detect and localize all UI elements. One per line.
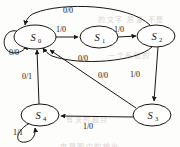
transition-label-t-s1-s2: 1/0	[114, 25, 124, 34]
transition-label-t-s3-s0: 0/0	[98, 71, 108, 80]
state-subscript: 0	[38, 37, 41, 44]
state-diagram-figure: 的文字 质量 不是一个系统的有关的题目电路图中的输出	[0, 0, 180, 147]
state-label: S	[30, 32, 36, 43]
state-subscript: 3	[155, 115, 158, 122]
state-diagram-canvas: S0S1S2S3S4 0/01/01/00/00/01/00/01/00/11/…	[0, 0, 180, 147]
transition-label-t-s2-s0-mid: 0/0	[78, 54, 88, 63]
transition-label-t-s2-s0-top: 0/0	[63, 6, 73, 15]
state-label: S	[147, 110, 153, 121]
state-label: S	[151, 31, 157, 42]
transition-label-t-s3-s4: 1/0	[83, 122, 93, 131]
edge-s4-s0	[37, 50, 39, 104]
transition-label-t-s0-s1: 1/0	[56, 25, 66, 34]
transition-label-t-s4-s0: 0/1	[22, 72, 32, 81]
edge-s2-s3	[154, 47, 158, 101]
state-label: S	[35, 110, 41, 121]
transition-label-t-s4-self: 1/1	[13, 128, 23, 137]
state-subscript: 1	[102, 37, 105, 44]
state-node-s1[interactable]: S1	[80, 26, 118, 48]
transition-label-t-s0-self: 0/0	[9, 48, 19, 57]
transition-label-t-s2-s3: 1/0	[130, 70, 140, 79]
state-node-s2[interactable]: S2	[137, 25, 175, 47]
state-node-s3[interactable]: S3	[133, 104, 171, 126]
edge-s2-s0-lower	[43, 47, 152, 62]
state-subscript: 2	[159, 36, 162, 43]
state-label: S	[94, 32, 100, 43]
edge-s3-s4	[61, 116, 133, 117]
edge-s1-s2	[118, 36, 136, 37]
state-node-s4[interactable]: S4	[21, 104, 59, 126]
edge-s2-s0-top	[25, 6, 150, 25]
state-node-s0[interactable]: S0	[14, 25, 56, 49]
